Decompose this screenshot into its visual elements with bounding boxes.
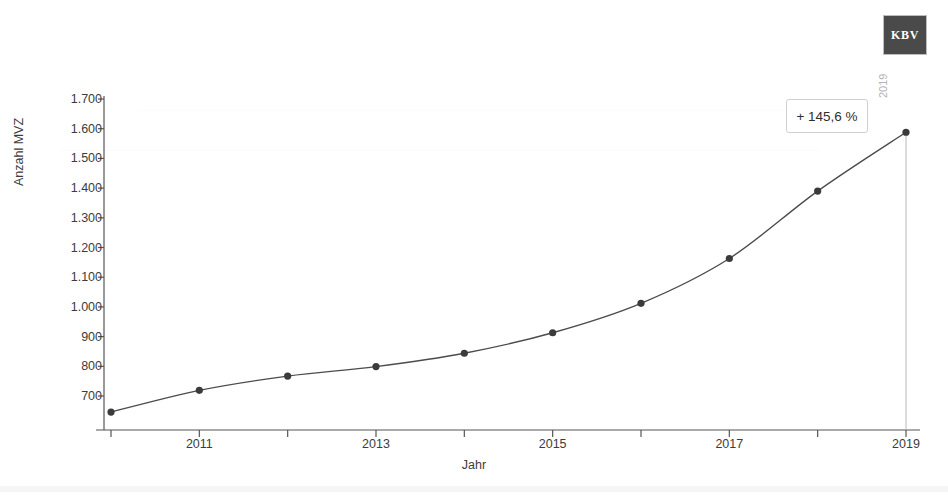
- chart-canvas: [0, 0, 948, 499]
- y-tick-label: 1.200: [42, 242, 102, 255]
- x-tick-label: 2017: [715, 437, 743, 451]
- y-tick-label: 1.500: [42, 152, 102, 165]
- x-tick-label: 2011: [186, 437, 213, 451]
- y-tick-label: 700: [42, 390, 102, 403]
- chart-page: KBV 1.7001.6001.5001.4001.3001.2001.1001…: [0, 0, 948, 499]
- data-markers: [107, 129, 909, 416]
- y-axis-tick-labels: 1.7001.6001.5001.4001.3001.2001.1001.000…: [40, 0, 102, 499]
- y-tick-label: 800: [42, 360, 102, 373]
- data-point-2014: [461, 350, 468, 357]
- data-point-2016: [637, 300, 644, 307]
- line-chart: 1.7001.6001.5001.4001.3001.2001.1001.000…: [0, 0, 948, 499]
- y-tick-label: 1.000: [42, 301, 102, 314]
- x-tick-label: 2019: [892, 437, 920, 451]
- y-tick-label: 1.600: [42, 123, 102, 136]
- endpoint-year-label: 2019: [877, 74, 889, 98]
- growth-callout: + 145,6 %: [786, 99, 868, 133]
- y-tick-label: 1.300: [42, 212, 102, 225]
- x-axis-label: Jahr: [0, 458, 948, 472]
- data-line: [111, 132, 906, 412]
- data-point-2015: [549, 329, 556, 336]
- data-point-2019: [902, 129, 909, 136]
- data-point-2012: [284, 373, 291, 380]
- data-point-2011: [196, 387, 203, 394]
- data-point-2010: [107, 408, 114, 415]
- data-point-2018: [814, 187, 821, 194]
- y-tick-label: 1.700: [42, 93, 102, 106]
- y-tick-label: 900: [42, 331, 102, 344]
- data-point-2013: [372, 363, 379, 370]
- y-axis-label: Anzahl MVZ: [12, 118, 26, 186]
- y-tick-label: 1.100: [42, 271, 102, 284]
- y-tick-label: 1.400: [42, 182, 102, 195]
- data-point-2017: [726, 255, 733, 262]
- x-tick-label: 2013: [362, 437, 390, 451]
- x-tick-label: 2015: [539, 437, 567, 451]
